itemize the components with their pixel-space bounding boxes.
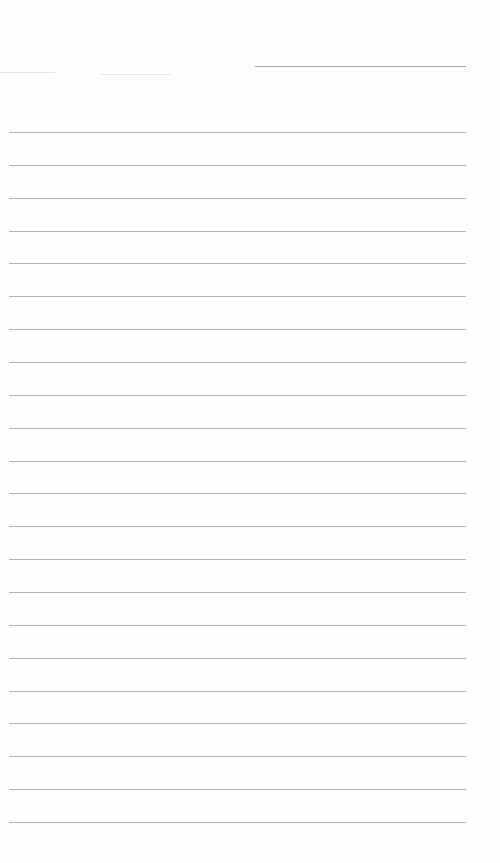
ruled-line — [9, 132, 466, 133]
header-line — [255, 66, 466, 67]
header-title — [255, 48, 466, 64]
ruled-line — [9, 263, 466, 264]
ruled-line — [9, 822, 466, 823]
ruled-line — [9, 428, 466, 429]
ruled-line — [9, 592, 466, 593]
ruled-line — [9, 231, 466, 232]
ruled-line — [9, 165, 466, 166]
ruled-line — [9, 329, 466, 330]
ruled-line — [9, 296, 466, 297]
ruled-line — [9, 461, 466, 462]
ruled-line — [9, 362, 466, 363]
ruled-line — [9, 789, 466, 790]
ruled-line — [9, 526, 466, 527]
ruled-line — [9, 691, 466, 692]
ruled-line — [9, 198, 466, 199]
ruled-line — [9, 658, 466, 659]
ruled-line — [9, 756, 466, 757]
lined-page — [0, 0, 500, 863]
ruled-line — [9, 493, 466, 494]
faint-top-mark — [100, 74, 170, 75]
ruled-line — [9, 395, 466, 396]
faint-top-mark — [0, 72, 55, 73]
ruled-line — [9, 559, 466, 560]
ruled-line — [9, 625, 466, 626]
ruled-line — [9, 723, 466, 724]
